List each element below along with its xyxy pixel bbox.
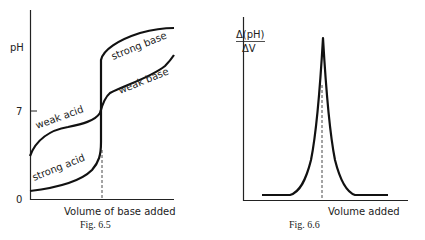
label-weak-base: weak base: [117, 66, 171, 96]
figure-caption: Fig. 6.5: [80, 219, 111, 230]
y-tick-label-7: 7: [16, 106, 22, 117]
y-axis-label: pH: [10, 42, 24, 53]
y-axis-label-numerator: Δ(pH): [236, 29, 265, 40]
figure-caption: Fig. 6.6: [289, 219, 320, 230]
y-axis-label-denominator: ΔV: [242, 43, 256, 54]
fig-6-5-chart: pH 7 0 weak acid strong acid strong base…: [10, 10, 176, 230]
fig-6-6-chart: Δ(pH) ΔV Volume added Fig. 6.6: [236, 17, 408, 230]
x-axis-label: Volume of base added: [64, 206, 176, 217]
label-weak-acid: weak acid: [34, 103, 85, 131]
figure-canvas: pH 7 0 weak acid strong acid strong base…: [0, 0, 425, 240]
y-tick-label-0: 0: [16, 194, 22, 205]
x-axis-label: Volume added: [328, 206, 400, 217]
derivative-peak-curve: [262, 38, 388, 195]
